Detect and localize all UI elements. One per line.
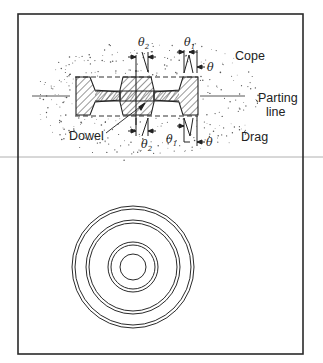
theta1-top-symbol: θ1 <box>184 36 195 51</box>
part-top-view-circles <box>72 206 194 328</box>
draft-angle-markers-top <box>128 50 205 73</box>
theta2-bottom-symbol: θ2 <box>141 138 153 153</box>
pattern-cross-section <box>76 70 198 125</box>
drag-label: Drag <box>241 130 268 144</box>
cope-label: Cope <box>235 49 265 63</box>
theta-bottom-symbol: θ <box>206 136 213 149</box>
theta2-top-symbol: θ2 <box>138 36 150 51</box>
diagram-frame <box>18 14 303 354</box>
dowel-label: Dowel <box>69 129 104 143</box>
parting-line-label-1: Parting <box>258 91 298 105</box>
theta-top-symbol: θ <box>207 61 214 74</box>
theta1-bottom-symbol: θ1 <box>166 133 177 148</box>
mold-diagram: Cope Parting line Drag Dowel θ2 θ1 θ θ2 … <box>0 0 323 363</box>
parting-line-label-2: line <box>266 105 286 119</box>
